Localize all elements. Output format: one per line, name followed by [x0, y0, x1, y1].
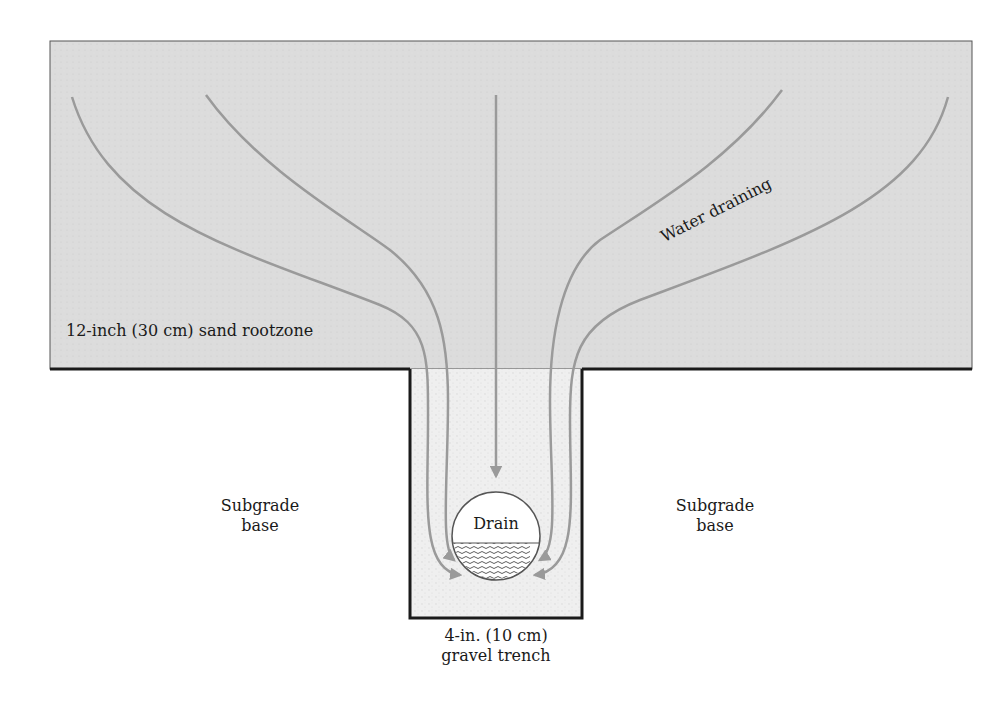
trench-label: 4-in. (10 cm) gravel trench — [406, 626, 586, 666]
subgrade-left-line2: base — [205, 516, 315, 536]
subgrade-right-line2: base — [660, 516, 770, 536]
drain-label: Drain — [456, 514, 536, 534]
rootzone-layer — [50, 41, 972, 369]
drain-pipe — [452, 492, 540, 580]
subgrade-left-line1: Subgrade — [205, 496, 315, 516]
subgrade-right-label: Subgrade base — [660, 496, 770, 536]
trench-line2: gravel trench — [406, 646, 586, 666]
rootzone-label: 12-inch (30 cm) sand rootzone — [66, 321, 313, 341]
subgrade-right-line1: Subgrade — [660, 496, 770, 516]
drainage-diagram — [0, 0, 1007, 707]
trench-line1: 4-in. (10 cm) — [406, 626, 586, 646]
subgrade-left-label: Subgrade base — [205, 496, 315, 536]
